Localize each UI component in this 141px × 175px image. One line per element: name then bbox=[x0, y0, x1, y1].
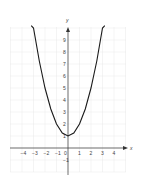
x-tick-label: 2 bbox=[90, 150, 93, 156]
x-tick-label: 1 bbox=[78, 150, 81, 156]
y-tick-label: 6 bbox=[63, 73, 66, 79]
x-axis-label: x bbox=[129, 145, 133, 151]
x-tick-label: −3 bbox=[32, 150, 38, 156]
y-tick-label: 7 bbox=[63, 61, 66, 67]
x-tick-label: −2 bbox=[44, 150, 50, 156]
axes bbox=[10, 27, 128, 175]
x-tick-label: −4 bbox=[21, 150, 27, 156]
x-tick-label: −1 bbox=[55, 150, 61, 156]
parabola-chart: −4−3−2−101234−1123456789 x y bbox=[0, 0, 141, 175]
x-tick-label: 3 bbox=[101, 150, 104, 156]
y-tick-label: 9 bbox=[63, 37, 66, 43]
y-tick-label: 8 bbox=[63, 49, 66, 55]
y-axis-label: y bbox=[65, 17, 69, 23]
x-tick-label: 4 bbox=[113, 150, 116, 156]
y-tick-label: 2 bbox=[63, 121, 66, 127]
y-tick-label: 3 bbox=[63, 109, 66, 115]
y-tick-label: 5 bbox=[63, 85, 66, 91]
x-tick-label: 0 bbox=[64, 150, 67, 156]
y-tick-label: 4 bbox=[63, 97, 66, 103]
y-tick-label: −1 bbox=[63, 157, 69, 163]
